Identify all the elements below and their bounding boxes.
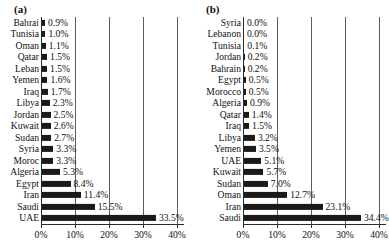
tick-mark	[345, 225, 346, 228]
value-label: 0.0%	[247, 29, 267, 39]
bar-row: Oman12.7%	[194, 190, 389, 202]
category-label: Jordan	[194, 52, 241, 62]
value-label: 2.5%	[54, 110, 74, 120]
value-label: 3.3%	[56, 144, 76, 154]
bar	[244, 192, 287, 198]
bar	[42, 77, 47, 83]
category-label: Yemen	[0, 75, 39, 85]
bar	[42, 20, 45, 26]
figure-two-panel-bar-charts: (a) Bahrai0.9%Tunisia1.0%Oman1.1%Qatar1.…	[0, 0, 389, 252]
category-label: Saudi	[194, 213, 241, 223]
value-label: 1.7%	[51, 87, 71, 97]
value-label: 23.1%	[326, 202, 351, 212]
bar-row: Lebanon0.0%	[194, 29, 389, 41]
x-tick-label: 20%	[302, 229, 320, 240]
value-label: 3.5%	[259, 144, 279, 154]
category-label: UAE	[0, 213, 39, 223]
bar	[244, 181, 268, 187]
value-label: 11.4%	[84, 190, 108, 200]
category-label: Leban	[0, 64, 39, 74]
bar-row: Yemen1.6%	[0, 75, 194, 87]
x-tick-label: 40%	[168, 229, 186, 240]
category-label: Egypt	[194, 75, 241, 85]
value-label: 0.5%	[249, 75, 269, 85]
bar-row: Iran23.1%	[194, 201, 389, 213]
bar	[244, 158, 261, 164]
category-label: Lebanon	[194, 29, 241, 39]
category-label: Jordan	[0, 110, 39, 120]
panel-a-rows: Bahrai0.9%Tunisia1.0%Oman1.1%Qatar1.5%Le…	[0, 17, 194, 224]
bar-row: Iraq1.5%	[194, 121, 389, 133]
value-label: 3.3%	[56, 156, 76, 166]
bar	[42, 43, 46, 49]
category-label: Sudan	[194, 179, 241, 189]
bar-row: Moroc3.3%	[0, 155, 194, 167]
tick-mark	[143, 225, 144, 228]
tick-mark	[109, 225, 110, 228]
category-label: Morocco	[194, 87, 241, 97]
category-label: Qatar	[0, 52, 39, 62]
bar-row: Jordan0.2%	[194, 52, 389, 64]
bar	[42, 169, 60, 175]
bar-row: Oman1.1%	[0, 40, 194, 52]
x-tick-label: 30%	[134, 229, 152, 240]
bar-row: Morocco0.5%	[194, 86, 389, 98]
bar-row: Iraq1.7%	[0, 86, 194, 98]
bar-row: Yemen3.5%	[194, 144, 389, 156]
bar-row: Syria0.0%	[194, 17, 389, 29]
bar	[42, 100, 50, 106]
bar	[42, 204, 95, 210]
value-label: 0.9%	[250, 98, 270, 108]
bar	[42, 158, 53, 164]
panel-b-ticks: 0%10%20%30%40%	[194, 225, 389, 241]
bar-row: Sudan7.0%	[194, 178, 389, 190]
category-label: Libya	[0, 98, 39, 108]
value-label: 0.5%	[249, 87, 269, 97]
value-label: 7.0%	[271, 179, 291, 189]
panel-b-plot: Syria0.0%Lebanon0.0%Tunisia0.1%Jordan0.2…	[194, 17, 389, 224]
panel-b-chart: Syria0.0%Lebanon0.0%Tunisia0.1%Jordan0.2…	[194, 17, 389, 224]
bar	[244, 66, 245, 72]
value-label: 12.7%	[290, 190, 315, 200]
category-label: UAE	[194, 156, 241, 166]
bar-row: Algeria5.3%	[0, 167, 194, 179]
bar	[244, 123, 249, 129]
bar	[42, 146, 53, 152]
category-label: Qatar	[194, 110, 241, 120]
value-label: 33.5%	[159, 213, 184, 223]
category-label: Libya	[194, 133, 241, 143]
value-label: 1.5%	[50, 64, 70, 74]
value-label: 5.1%	[264, 156, 284, 166]
category-label: Iran	[194, 202, 241, 212]
bar-row: Syria3.3%	[0, 144, 194, 156]
value-label: 1.1%	[49, 41, 69, 51]
value-label: 8.4%	[74, 179, 94, 189]
category-label: Iraq	[0, 87, 39, 97]
value-label: 1.0%	[48, 29, 68, 39]
category-label: Egypt	[0, 179, 39, 189]
value-label: 0.9%	[48, 18, 68, 28]
x-tick-label: 10%	[268, 229, 286, 240]
value-label: 0.1%	[247, 41, 267, 51]
bar	[42, 135, 51, 141]
panel-a-label: (a)	[14, 3, 27, 15]
bar-row: Libya2.3%	[0, 98, 194, 110]
bar	[42, 181, 71, 187]
bar-row: Kuwait5.7%	[194, 167, 389, 179]
value-label: 0.0%	[247, 18, 267, 28]
category-label: Iraq	[194, 121, 241, 131]
bar	[244, 89, 246, 95]
bar	[42, 66, 47, 72]
x-tick-label: 10%	[66, 229, 84, 240]
category-label: Kuwait	[0, 121, 39, 131]
bar-row: Qatar1.4%	[194, 109, 389, 121]
value-label: 0.2%	[248, 64, 268, 74]
value-label: 1.5%	[50, 52, 70, 62]
value-label: 2.3%	[53, 98, 73, 108]
bar-row: Libya3.2%	[194, 132, 389, 144]
x-tick-label: 40%	[370, 229, 388, 240]
bar	[42, 54, 47, 60]
bar-row: Saudi15.5%	[0, 201, 194, 213]
category-label: Oman	[0, 41, 39, 51]
panel-a-plot: Bahrai0.9%Tunisia1.0%Oman1.1%Qatar1.5%Le…	[0, 17, 194, 224]
